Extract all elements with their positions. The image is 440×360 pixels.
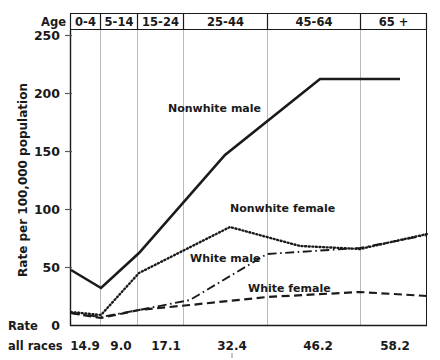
rate-value-25-44: 32.4 [217,339,247,353]
age-axis-caption: Age [41,15,66,29]
rate-value-65plus: 58.2 [380,339,410,353]
rate-all-races-label-line2: all races [8,339,63,353]
line-chart-svg: Age 0-4 5-14 15-24 25-44 45-64 65 + 250 … [0,0,440,360]
ytick-label-150: 150 [34,144,60,159]
rate-value-0-4: 14.9 [70,339,100,353]
rate-value-15-24: 17.1 [151,339,181,353]
y-axis-title: Rate per 100,000 population [16,83,30,277]
ytick-label-250: 250 [34,28,60,43]
age-band-label-0-4: 0-4 [75,15,96,29]
series-label-white-female: White female [248,282,331,295]
ytick-label-200: 200 [34,86,60,101]
age-band-label-5-14: 5-14 [105,15,134,29]
ytick-label-100: 100 [34,202,60,217]
ytick-label-50: 50 [43,260,61,275]
ytick-label-0: 0 [51,318,60,333]
age-band-label-65plus: 65 + [379,15,409,29]
series-label-nonwhite-female: Nonwhite female [230,202,335,215]
age-band-label-25-44: 25-44 [207,15,244,29]
rate-all-races-label-line1: Rate [8,319,38,333]
series-line-white-male [71,235,427,317]
age-band-label-15-24: 15-24 [142,15,179,29]
age-band-label-45-64: 45-64 [296,15,333,29]
chart-figure: Age 0-4 5-14 15-24 25-44 45-64 65 + 250 … [0,0,440,360]
rate-value-5-14: 9.0 [110,339,131,353]
series-line-nonwhite-female [71,227,427,315]
series-line-white-female [71,292,427,318]
series-label-nonwhite-male: Nonwhite male [168,102,261,115]
rate-value-45-64: 46.2 [303,339,333,353]
series-label-white-male: White male [190,252,260,265]
